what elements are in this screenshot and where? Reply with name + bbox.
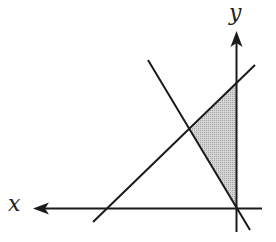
diagram-svg — [0, 0, 276, 242]
diagram-canvas: x y — [0, 0, 276, 242]
y-axis-label: y — [229, 2, 241, 24]
x-axis-label: x — [8, 193, 20, 215]
shaded-region — [190, 84, 236, 208]
